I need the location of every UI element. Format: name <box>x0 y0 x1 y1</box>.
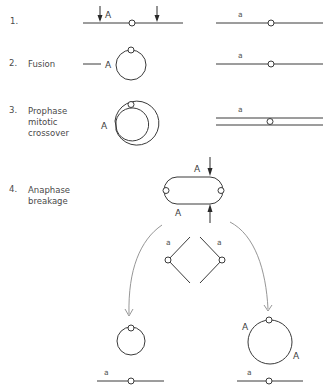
allele-a-label: a <box>238 51 243 60</box>
centromere-icon <box>266 378 272 384</box>
centromere-icon <box>219 257 225 263</box>
allele-a-label: a <box>104 368 109 377</box>
result-large-ring: A A <box>242 317 300 364</box>
centromere-icon <box>267 119 273 125</box>
centromere-icon <box>268 20 274 26</box>
centromere-icon <box>129 20 135 26</box>
allele-A-label: A <box>105 60 112 70</box>
allele-A-label: A <box>105 10 112 20</box>
break-arrow-icon <box>208 204 213 223</box>
curved-arrow-right-icon <box>230 222 272 311</box>
step-2-chromosome-a: a <box>216 51 323 67</box>
step-4-dicentric-bridge: A A <box>163 157 224 223</box>
broken-fragment-left: a <box>165 237 190 283</box>
diagram-canvas: A a A a A <box>0 0 329 390</box>
allele-A-label: A <box>194 164 201 174</box>
allele-a-label: a <box>238 105 243 114</box>
allele-a-label: a <box>217 238 222 247</box>
inner-chromatid <box>116 108 149 141</box>
centromere-icon <box>128 102 134 108</box>
centromere-icon <box>128 378 134 384</box>
break-arrow-icon <box>98 6 103 22</box>
result-small-ring <box>117 325 145 355</box>
result-chromosome-a-left: a <box>97 368 164 384</box>
allele-A-label: A <box>175 208 182 218</box>
allele-A-label: A <box>101 121 108 131</box>
allele-a-label: a <box>166 238 171 247</box>
centromere-icon <box>266 317 272 323</box>
step-2-ring-and-fragment: A <box>83 47 146 80</box>
centromere-icon <box>128 47 134 53</box>
allele-A-label: A <box>293 351 300 361</box>
step-3-chromatids-a: a <box>216 105 323 125</box>
broken-fragment-right: a <box>200 237 225 283</box>
centromere-icon <box>163 188 169 194</box>
break-arrow-icon <box>155 6 160 22</box>
allele-A-label: A <box>242 322 249 332</box>
allele-a-label: a <box>247 368 252 377</box>
centromere-icon <box>128 325 134 331</box>
centromere-icon <box>268 61 274 67</box>
centromere-icon <box>218 188 224 194</box>
ring-chromosome-diagram: 1. 2. Fusion 3. Prophase mitotic crossov… <box>0 0 329 390</box>
ring-chromosome <box>116 50 146 80</box>
result-chromosome-a-right: a <box>237 368 303 384</box>
centromere-icon <box>165 257 171 263</box>
step-1-chromosome-A: A <box>83 6 183 26</box>
allele-a-label: a <box>238 10 243 19</box>
step-3-interlocked-ring: A <box>101 101 159 145</box>
outer-chromatid <box>115 101 159 145</box>
step-1-chromosome-a: a <box>216 10 323 26</box>
curved-arrow-left-icon <box>125 225 162 316</box>
break-arrow-icon <box>208 157 213 176</box>
